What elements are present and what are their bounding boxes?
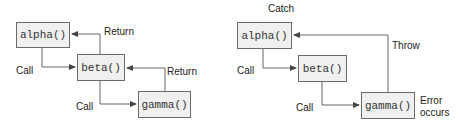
label-catch: Catch <box>268 3 294 15</box>
node-alpha: alpha() <box>16 22 70 48</box>
label-call-1-r: Call <box>237 65 254 77</box>
call-arrow-alpha-beta <box>42 47 75 67</box>
node-alpha-r: alpha() <box>237 22 292 49</box>
node-gamma-r-label: gamma() <box>365 100 411 112</box>
label-call-1: Call <box>16 65 33 77</box>
label-error-line2: occurs <box>420 107 449 119</box>
return-arrow-beta-alpha <box>72 34 100 54</box>
call-arrow-alpha-beta-r <box>263 48 296 68</box>
label-error-line1: Error <box>420 95 442 107</box>
node-gamma: gamma() <box>138 91 191 118</box>
node-alpha-r-label: alpha() <box>241 30 287 42</box>
node-beta-r: beta() <box>298 55 347 82</box>
node-beta-label: beta() <box>81 62 121 74</box>
label-return-2: Return <box>167 66 197 78</box>
node-alpha-label: alpha() <box>20 29 66 41</box>
label-call-2-r: Call <box>296 102 313 114</box>
label-throw: Throw <box>392 40 420 52</box>
node-beta: beta() <box>77 54 125 81</box>
node-gamma-r: gamma() <box>361 92 415 119</box>
call-arrow-beta-gamma <box>100 80 136 104</box>
return-arrow-gamma-beta <box>127 68 165 91</box>
node-beta-r-label: beta() <box>303 63 343 75</box>
call-arrow-beta-gamma-r <box>322 81 359 105</box>
label-return-1: Return <box>104 26 134 38</box>
label-call-2: Call <box>76 101 93 113</box>
node-gamma-label: gamma() <box>141 99 187 111</box>
